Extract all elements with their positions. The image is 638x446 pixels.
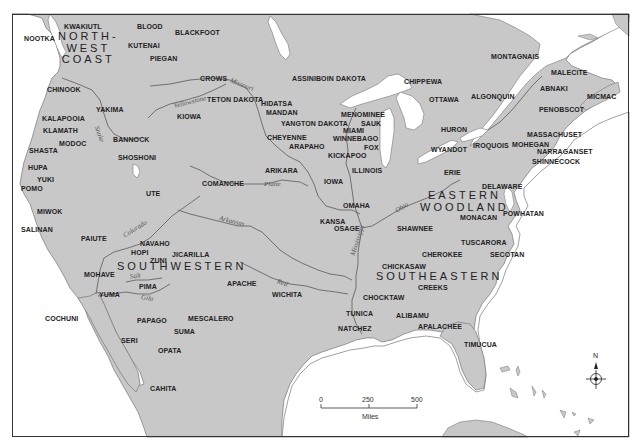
tribe-label: WINNEBAGO <box>333 135 378 142</box>
tribe-label: CROWS <box>200 75 227 82</box>
tribe-label: PAIUTE <box>81 235 107 242</box>
tribe-label: MOHEGAN <box>512 141 549 148</box>
tribe-label: ASSINIBOIN DAKOTA <box>292 75 366 82</box>
tribe-label: OPATA <box>158 347 181 354</box>
tribe-label: MICMAC <box>587 93 616 100</box>
region-label-line: EASTERN <box>420 190 509 202</box>
tribe-label: MIAMI <box>343 127 364 134</box>
region-label-southeastern: SOUTHEASTERN <box>376 271 502 283</box>
tribe-label: MONTAGNAIS <box>491 53 539 60</box>
region-label-line: NORTH- <box>58 31 119 43</box>
tribe-label: NARRAGANSET <box>537 148 593 155</box>
tribe-label: SAUK <box>361 120 381 127</box>
tribe-label: MIWOK <box>37 208 62 215</box>
tribe-label: YANGTON DAKOTA <box>281 120 348 127</box>
scale-tick-500: 500 <box>411 396 423 403</box>
scale-tick-250: 250 <box>362 396 374 403</box>
tribe-label: WYANDOT <box>431 146 467 153</box>
tribe-label: ARAPAHO <box>289 143 325 150</box>
tribe-label: KUTENAI <box>128 42 160 49</box>
tribe-label: CAHITA <box>150 385 177 392</box>
tribe-label: SHINNECOCK <box>532 158 580 165</box>
region-label-northwest-coast: NORTH-WESTCOAST <box>58 31 119 66</box>
tribe-label: BLACKFOOT <box>175 29 220 36</box>
tribe-label: PENOBSCOT <box>539 106 584 113</box>
tribe-label: MANDAN <box>266 109 298 116</box>
tribe-label: SECOTAN <box>490 251 524 258</box>
tribe-label: ABNAKI <box>540 85 568 92</box>
tribe-label: PIEGAN <box>150 55 177 62</box>
tribe-label: BLOOD <box>137 23 163 30</box>
tribe-label: SERI <box>121 337 138 344</box>
tribe-label: SUMA <box>174 328 195 335</box>
tribe-label: UTE <box>146 190 160 197</box>
tribe-label: NATCHEZ <box>338 325 372 332</box>
tribe-label: YUMA <box>99 291 120 298</box>
tribe-label: HUPA <box>28 164 48 171</box>
river-label: Platte <box>264 181 281 188</box>
tribe-label: TUSCARORA <box>461 239 507 246</box>
tribe-label: IOWA <box>324 178 343 185</box>
tribe-label: KANSA <box>320 218 345 225</box>
tribe-label: KALAPOOIA <box>42 115 85 122</box>
tribe-label: MASSACHUSET <box>527 131 582 138</box>
tribe-label: ILLINOIS <box>352 167 382 174</box>
tribe-label: POWHATAN <box>503 210 544 217</box>
tribe-label: NOOTKA <box>24 35 55 42</box>
tribe-label: COMANCHE <box>202 180 244 187</box>
tribe-label: SHASTA <box>29 147 58 154</box>
tribe-label: KICKAPOO <box>328 152 367 159</box>
tribe-label: SHOSHONI <box>118 154 156 161</box>
tribe-label: MALECITE <box>551 69 588 76</box>
tribe-label: CHOCKTAW <box>363 294 405 301</box>
tribe-label: COCHUNI <box>45 315 78 322</box>
region-label-line: COAST <box>58 54 119 66</box>
tribe-label: APALACHEE <box>418 323 462 330</box>
tribe-label: MOHAVE <box>84 271 115 278</box>
tribe-label: CREEKS <box>418 284 448 291</box>
tribe-label: PIMA <box>139 283 157 290</box>
region-label-line: SOUTHEASTERN <box>376 271 502 283</box>
tribe-label: JICARILLA <box>172 251 209 258</box>
tribe-label: MESCALERO <box>188 315 234 322</box>
tribe-label: IROQUOIS <box>473 142 509 149</box>
tribe-label: ALIBAMU <box>396 312 429 319</box>
tribe-label: YUKI <box>37 176 54 183</box>
tribe-label: YAKIMA <box>96 106 124 113</box>
tribe-label: PAPAGO <box>137 317 167 324</box>
compass-north-label: N <box>593 352 598 359</box>
tribe-label: CHEYENNE <box>267 134 307 141</box>
tribe-label: OTTAWA <box>429 96 459 103</box>
tribe-label: KLAMATH <box>43 127 78 134</box>
tribe-label: FOX <box>364 144 379 151</box>
tribe-label: SHAWNEE <box>397 225 433 232</box>
tribe-label: ERIE <box>444 169 461 176</box>
tribe-label: MODOC <box>59 140 86 147</box>
tribe-label: TETON DAKOTA <box>207 96 263 103</box>
tribe-label: CHIPPEWA <box>404 78 442 85</box>
tribe-label: MENOMINEE <box>341 111 385 118</box>
tribe-label: HIDATSA <box>261 100 292 107</box>
tribe-label: BANNOCK <box>113 136 149 143</box>
tribe-label: TUNICA <box>346 310 373 317</box>
scale-tick-0: 0 <box>319 396 323 403</box>
tribe-label: CHICKASAW <box>382 263 426 270</box>
tribe-label: POMO <box>21 185 43 192</box>
tribe-label: SALINAN <box>21 226 53 233</box>
tribe-label: TIMUCUA <box>464 341 497 348</box>
tribe-label: HOPI <box>131 249 149 256</box>
tribe-label: ARIKARA <box>265 167 298 174</box>
tribe-label: MONACAN <box>460 214 497 221</box>
tribe-label: OMAHA <box>343 202 370 209</box>
tribe-label: HURON <box>441 126 467 133</box>
tribe-label: CHINOOK <box>47 86 81 93</box>
tribe-label: CHEROKEE <box>422 251 462 258</box>
tribe-label: WICHITA <box>272 291 302 298</box>
tribe-label: KWAKIUTL <box>64 23 102 30</box>
region-label-eastern-woodland: EASTERNWOODLAND <box>420 190 509 213</box>
tribe-label: APACHE <box>227 280 257 287</box>
region-label-line: WOODLAND <box>420 202 509 214</box>
scale-unit: Miles <box>362 413 378 420</box>
tribe-label: NAVAHO <box>140 240 170 247</box>
tribe-label: KIOWA <box>177 113 201 120</box>
